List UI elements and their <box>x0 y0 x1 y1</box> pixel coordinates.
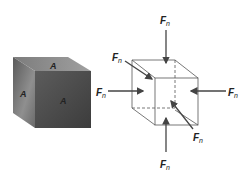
wireframe-cube <box>132 60 198 125</box>
top-face-label: A <box>49 61 57 71</box>
diagram-canvas: A A A Fn Fn Fn Fn Fn Fn <box>0 0 246 178</box>
bottom-right-edge <box>175 110 198 125</box>
force-label-left: Fn <box>96 87 106 99</box>
force-label-back: Fn <box>112 52 122 64</box>
back-edges <box>132 60 198 108</box>
force-label-bottom: Fn <box>160 159 170 171</box>
bottom-left-edge <box>132 108 155 125</box>
front-face-label: A <box>59 96 67 106</box>
front-face-outline <box>155 78 198 125</box>
force-arrows <box>108 30 226 152</box>
solid-cube: A A A <box>13 57 91 128</box>
force-labels: Fn Fn Fn Fn Fn Fn <box>96 15 238 171</box>
arrow-back <box>125 61 152 79</box>
left-face-label: A <box>19 89 27 99</box>
top-left-edge <box>132 60 155 78</box>
force-label-right: Fn <box>228 87 238 99</box>
force-label-top: Fn <box>160 15 170 27</box>
force-label-front: Fn <box>193 132 203 144</box>
